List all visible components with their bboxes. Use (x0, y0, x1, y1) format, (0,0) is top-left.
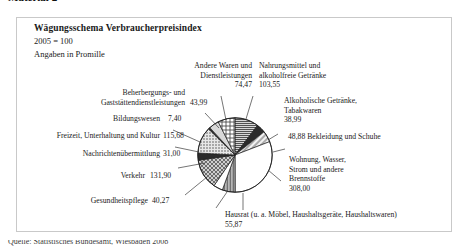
label-bildungswesen: Bildungswesen (40, 114, 160, 124)
label-verkehr-value: 131,90 (150, 171, 171, 181)
label-wohnung-line3: Brennstoffe (289, 174, 409, 184)
label-nahrungsmittel: Nahrungsmittel und alkoholfreie Getränke… (259, 61, 379, 90)
label-freizeit-value: 115,68 (163, 131, 184, 141)
label-gesundheit-value: 40,27 (152, 196, 169, 206)
chart-subtitle-base: 2005 = 100 (34, 36, 73, 46)
material-caption-crop: Material 2 (0, 0, 469, 6)
label-verkehr: Verkehr (70, 171, 145, 181)
label-andere-waren: Andere Waren und Dienstleistungen 74,47 (142, 61, 252, 90)
label-wohnung: Wohnung, Wasser, Strom und andere Brenns… (289, 155, 409, 193)
label-alkohol-tabak-line1: Alkoholische Getränke, (284, 96, 414, 106)
label-beherbergung-line2: Gaststättendienstleistungen (20, 98, 185, 108)
label-andere-waren-line2: Dienstleistungen (142, 71, 252, 81)
label-bildungswesen-value: 7,40 (168, 114, 181, 124)
pie-svg (197, 117, 273, 193)
label-wohnung-line2: Strom und andere (289, 165, 409, 175)
label-andere-waren-line1: Andere Waren und (142, 61, 252, 71)
label-nachrichten: Nachrichtenübermittlung (40, 149, 160, 159)
label-bekleidung: 48,88 Bekleidung und Schuhe (288, 132, 381, 142)
chart-title: Wägungsschema Verbraucherpreisindex (34, 23, 202, 33)
label-alkohol-tabak: Alkoholische Getränke, Tabakwaren 38,99 (284, 96, 414, 125)
label-hausrat-value: 55,87 (225, 220, 455, 230)
source-note: Quelle: Statistisches Bundesamt, Wiesbad… (8, 240, 168, 246)
label-beherbergung: Beherbergungs- und Gaststättendienstleis… (20, 88, 185, 107)
label-wohnung-value: 308,00 (289, 184, 409, 194)
source-note-crop: Quelle: Statistisches Bundesamt, Wiesbad… (0, 240, 469, 247)
material-caption: Material 2 (8, 0, 57, 3)
label-alkohol-tabak-line2: Tabakwaren (284, 106, 414, 116)
chart-subtitle-unit: Angaben in Promille (34, 49, 105, 59)
label-wohnung-line1: Wohnung, Wasser, (289, 155, 409, 165)
label-hausrat-line1: Hausrat (u. a. Möbel, Haushaltsgeräte, H… (225, 210, 455, 220)
label-nahrungsmittel-line1: Nahrungsmittel und (259, 61, 379, 71)
label-alkohol-tabak-value: 38,99 (284, 115, 414, 125)
label-gesundheit: Gesundheitspflege (38, 196, 148, 206)
label-hausrat: Hausrat (u. a. Möbel, Haushaltsgeräte, H… (225, 210, 455, 229)
pie-chart (197, 117, 273, 193)
label-nahrungsmittel-value: 103,55 (259, 80, 379, 90)
label-beherbergung-value: 43,99 (190, 98, 207, 108)
label-nachrichten-value: 31,00 (163, 149, 180, 159)
label-beherbergung-line1: Beherbergungs- und (20, 88, 185, 98)
figure-page: Material 2 Quelle: Statistisches Bundesa… (0, 0, 469, 247)
label-nahrungsmittel-line2: alkoholfreie Getränke (259, 71, 379, 81)
label-freizeit: Freizeit, Unterhaltung und Kultur (16, 131, 160, 141)
